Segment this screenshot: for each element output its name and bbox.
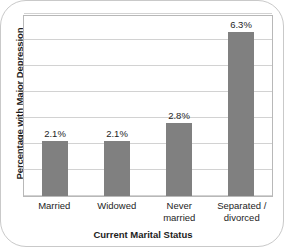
bar-value-label: 2.8% [168, 110, 190, 121]
bar[interactable] [104, 141, 130, 196]
x-axis-tick-labels: MarriedWidowedNevermarriedSeparated /div… [23, 200, 273, 230]
x-tick-label-line: Separated / [211, 200, 274, 212]
bar-value-label: 6.3% [230, 19, 252, 30]
x-tick-label-line: Married [23, 200, 86, 212]
bar-value-label: 2.1% [106, 128, 128, 139]
x-tick-label-line: Never [148, 200, 211, 212]
x-tick-label: Nevermarried [148, 200, 211, 223]
bar-group: 6.3% [210, 16, 272, 196]
gridline [24, 13, 272, 14]
bar-series: 2.1%2.1%2.8%6.3% [24, 16, 272, 196]
x-tick-label: Separated /divorced [211, 200, 274, 223]
bar-value-label: 2.1% [44, 128, 66, 139]
bar[interactable] [228, 32, 254, 196]
figure-page: Percentage with Major Depression 2.1%2.1… [0, 0, 284, 247]
bar[interactable] [166, 123, 192, 196]
x-tick-label-line: Widowed [86, 200, 149, 212]
x-tick-label: Widowed [86, 200, 149, 212]
bar-group: 2.8% [148, 16, 210, 196]
plot-area: 2.1%2.1%2.8%6.3% [23, 15, 273, 197]
bar[interactable] [42, 141, 68, 196]
bar-group: 2.1% [24, 16, 86, 196]
x-tick-label-line: divorced [211, 212, 274, 224]
bar-group: 2.1% [86, 16, 148, 196]
x-tick-label-line: married [148, 212, 211, 224]
x-tick-label: Married [23, 200, 86, 212]
x-axis-title: Current Marital Status [1, 229, 284, 240]
